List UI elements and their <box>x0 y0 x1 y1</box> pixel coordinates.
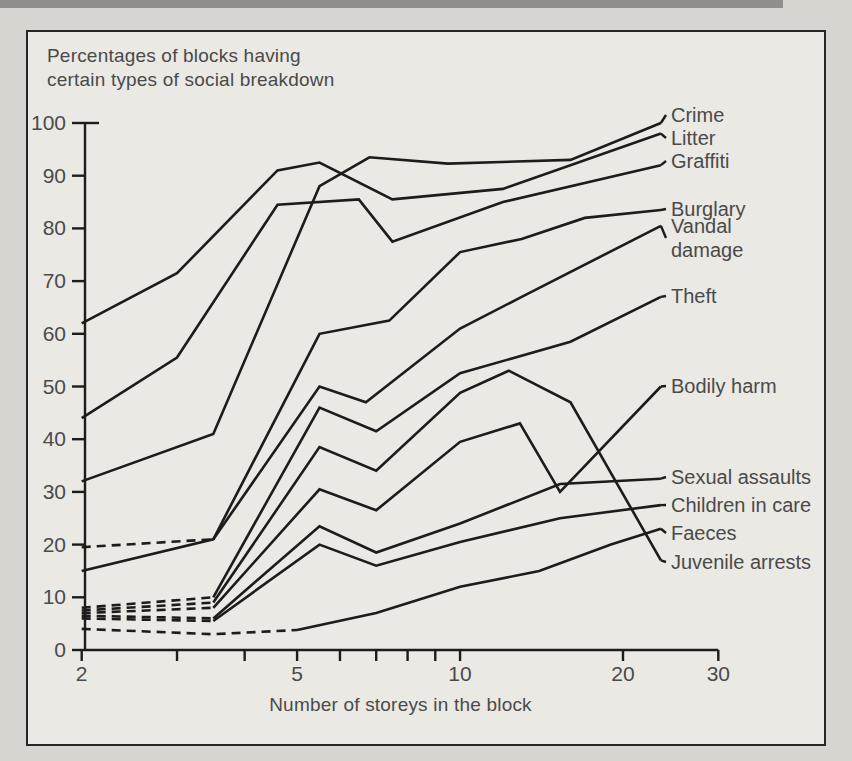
page: { "page": { "title_line1": "Percentages … <box>0 0 852 761</box>
x-axis-title: Number of storeys in the block <box>228 694 573 716</box>
chart-title-line2: certain types of social breakdown <box>47 68 387 92</box>
chart-title-line1: Percentages of blocks having <box>47 44 387 68</box>
figure-frame <box>26 30 826 746</box>
chart-title: Percentages of blocks having certain typ… <box>47 44 387 92</box>
page-top-strip <box>0 0 783 8</box>
